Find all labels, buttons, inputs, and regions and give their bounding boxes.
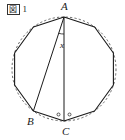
vertex-label-b: B [27,116,34,127]
figure-container: 図1 A B C x [0,0,125,140]
angle-label-x: x [60,41,64,50]
degree-mark-left-icon [57,113,60,116]
vertex-label-a: A [61,1,68,12]
degree-mark-right-icon [68,113,71,116]
geometry-diagram [0,0,125,140]
figure-caption-kanji: 図 [7,4,20,15]
angle-arc-x [59,33,64,34]
vertex-label-c: C [62,126,69,137]
segment-AB [33,17,64,111]
figure-caption: 図1 [7,4,28,15]
figure-caption-number: 1 [23,4,28,14]
